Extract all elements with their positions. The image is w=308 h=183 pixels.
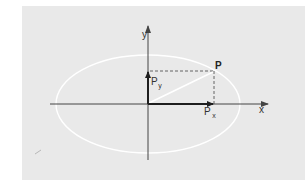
py-label: P y [151,76,162,90]
px-label: P x [204,106,216,119]
x-axis-label: x [259,104,264,115]
py-label-sub: y [158,82,162,90]
diagram-svg: y x P P x P y [0,0,308,183]
px-label-sub: x [212,112,216,119]
stray-mark [35,150,41,154]
py-label-main: P [151,76,158,87]
px-label-main: P [204,106,211,117]
diagram-canvas: y x P P x P y [0,0,308,183]
point-p-label: P [215,60,222,71]
y-axis-label: y [142,29,147,40]
